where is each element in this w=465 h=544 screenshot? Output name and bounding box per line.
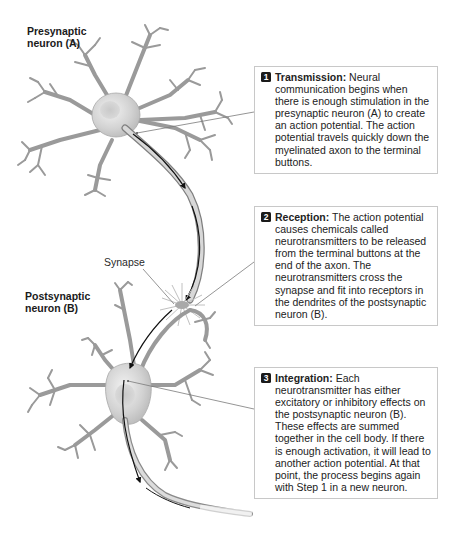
callout-integration-title: Integration: <box>275 372 333 384</box>
postsynaptic-axon <box>125 420 250 514</box>
callout-reception-title: Reception: <box>275 211 329 223</box>
step-3-badge: 3 <box>261 373 271 383</box>
callout-transmission-body: Neural communication begins when there i… <box>275 71 429 168</box>
presynaptic-label-line1: Presynaptic <box>27 25 87 37</box>
postsynaptic-label-line1: Postsynaptic <box>25 290 90 302</box>
postsynaptic-neuron-label: Postsynaptic neuron (B) <box>25 290 90 314</box>
step-2-badge: 2 <box>261 212 271 222</box>
callout-reception-text: Reception: The action potential causes c… <box>275 211 431 320</box>
presynaptic-axon <box>125 128 201 300</box>
step-1-badge: 1 <box>261 72 271 82</box>
leader-lines <box>128 112 254 409</box>
signal-arrow-3 <box>130 310 172 368</box>
callout-transmission-text: Transmission: Neural communication begin… <box>275 71 431 168</box>
callout-integration-text: Integration: Each neurotransmitter has e… <box>275 372 431 493</box>
postsynaptic-label-line2: neuron (B) <box>25 302 90 314</box>
presynaptic-neuron-label: Presynaptic neuron (A) <box>27 25 87 49</box>
callout-integration-body: Each neurotransmitter has either excitat… <box>275 372 431 493</box>
synapse-label: Synapse <box>104 256 145 268</box>
callout-transmission: 1 Transmission: Neural communication beg… <box>254 66 438 174</box>
presynaptic-label-line2: neuron (A) <box>27 37 87 49</box>
callout-reception: 2 Reception: The action potential causes… <box>254 206 438 326</box>
callout-integration: 3 Integration: Each neurotransmitter has… <box>254 367 438 499</box>
callout-reception-body: The action potential causes chemicals ca… <box>275 211 426 320</box>
callout-transmission-title: Transmission: <box>275 71 346 83</box>
